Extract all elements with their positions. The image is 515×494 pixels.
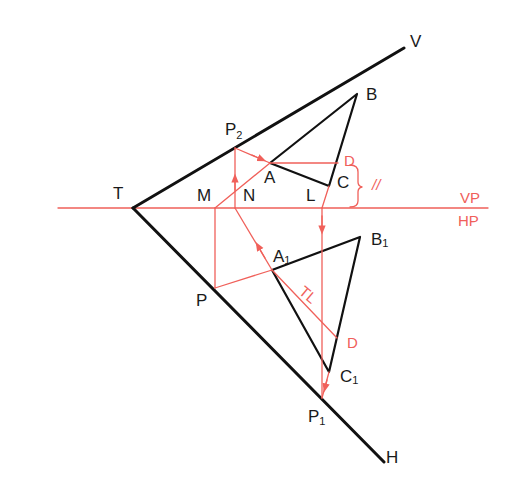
n-to-a1-line [235, 208, 272, 270]
label-c1: C1 [340, 367, 358, 386]
label-l: L [306, 186, 315, 205]
label-a: A [264, 168, 276, 187]
label-d-top: D [344, 152, 355, 169]
label-p2: P2 [225, 120, 242, 141]
parallel-mark: // [371, 176, 382, 193]
label-n: N [243, 186, 255, 205]
arrow-p2-a [252, 155, 262, 160]
p-to-a1-line [215, 270, 272, 288]
label-c: C [337, 173, 349, 192]
label-hp: HP [458, 212, 479, 229]
label-t: T [113, 184, 123, 203]
c-to-l-line [322, 186, 329, 208]
label-p: P [196, 291, 207, 310]
label-m: M [197, 186, 211, 205]
label-a1: A1 [273, 247, 290, 266]
arrow-a1-n [258, 246, 265, 258]
label-h: H [386, 448, 398, 467]
label-d-bottom: D [347, 334, 358, 351]
label-v: V [410, 32, 422, 51]
label-b1: B1 [371, 230, 388, 249]
projection-diagram: // T V H P2 M N L P P1 A B C A1 B1 C1 D … [0, 0, 515, 494]
distance-brace [350, 165, 362, 207]
label-b: B [366, 85, 377, 104]
label-true-length: TL [296, 282, 320, 306]
label-p1: P1 [308, 407, 325, 427]
label-vp: VP [460, 189, 480, 206]
